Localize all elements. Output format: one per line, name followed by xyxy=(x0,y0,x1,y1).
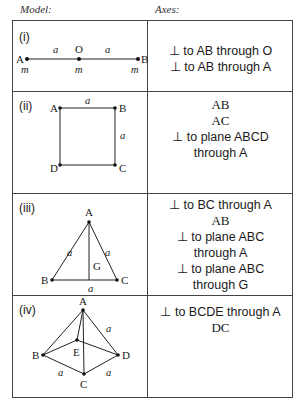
triangle-figure: A B C G a a a xyxy=(13,194,147,295)
axis-item: ⊥ to BCDE through A xyxy=(148,304,293,320)
line-segment-figure: A O B a a m m m xyxy=(13,21,147,91)
length-label: a xyxy=(105,44,110,55)
axis-item: through A xyxy=(148,145,293,161)
length-label: a xyxy=(58,367,63,378)
point-label: D xyxy=(122,349,130,361)
axes-column-header: Axes: xyxy=(155,3,179,15)
axis-item: ⊥ to AB through O xyxy=(148,43,293,59)
length-label: a xyxy=(67,247,72,258)
axis-item: through G xyxy=(148,277,293,293)
length-label: a xyxy=(106,367,111,378)
pyramid-figure: A B C D E a a a xyxy=(13,296,147,399)
axis-item: AC xyxy=(148,113,293,129)
length-label: a xyxy=(105,247,110,258)
length-label: a xyxy=(53,44,58,55)
point-label: D xyxy=(50,162,58,174)
axes-list: ⊥ to AB through O ⊥ to AB through A xyxy=(148,43,293,75)
square-figure: A B C D a a xyxy=(13,92,147,193)
length-label: a xyxy=(106,323,111,334)
point-label: B xyxy=(41,274,48,286)
length-label: a xyxy=(120,130,125,141)
mass-label: m xyxy=(21,64,29,75)
point-label: B xyxy=(32,349,39,361)
length-label: a xyxy=(88,283,93,294)
axis-item: AB xyxy=(148,213,293,229)
point-label: A xyxy=(50,102,58,114)
axis-item: ⊥ to plane ABC xyxy=(148,261,293,277)
axis-item: DC xyxy=(148,320,293,336)
point-label: C xyxy=(119,162,126,174)
point-label: A xyxy=(85,206,93,218)
point-label: G xyxy=(93,260,101,272)
axis-item: through A xyxy=(148,245,293,261)
point-label: A xyxy=(79,295,87,307)
axes-list: ⊥ to BC through A AB ⊥ to plane ABC thro… xyxy=(148,197,293,293)
axis-item: ⊥ to plane ABCD xyxy=(148,129,293,145)
axis-item: ⊥ to BC through A xyxy=(148,197,293,213)
axes-list: AB AC ⊥ to plane ABCD through A xyxy=(148,97,293,161)
axis-item: ⊥ to plane ABC xyxy=(148,229,293,245)
point-label: O xyxy=(75,43,83,55)
point-label: C xyxy=(121,274,128,286)
mass-label: m xyxy=(75,64,83,75)
models-axes-table: (i) A O B a a m m m ⊥ to AB through O ⊥ … xyxy=(12,20,293,398)
model-column-header: Model: xyxy=(20,3,52,15)
mass-label: m xyxy=(131,64,139,75)
point-label: B xyxy=(119,102,126,114)
length-label: a xyxy=(85,95,90,106)
axes-list: ⊥ to BCDE through A DC xyxy=(148,304,293,336)
point-label: C xyxy=(80,378,87,390)
axis-item: AB xyxy=(148,97,293,113)
axis-item: ⊥ to AB through A xyxy=(148,59,293,75)
point-label: E xyxy=(73,346,80,358)
